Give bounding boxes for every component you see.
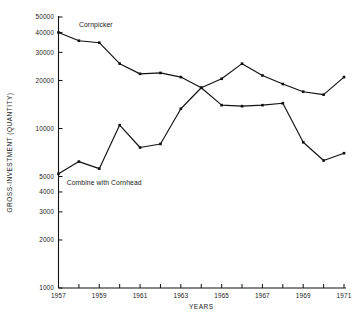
y-tick-label: 40000 (35, 29, 54, 36)
x-tick-label: 1963 (173, 292, 188, 299)
data-point-marker (139, 146, 142, 149)
x-tick-label: 1969 (296, 292, 311, 299)
x-tick-label: 1957 (51, 292, 66, 299)
data-point-marker (220, 77, 223, 80)
data-point-marker (241, 62, 244, 65)
data-point-marker (139, 73, 142, 76)
data-point-marker (200, 86, 203, 89)
x-tick-label: 1959 (92, 292, 107, 299)
data-point-marker (180, 76, 183, 79)
data-point-marker (159, 72, 162, 75)
data-point-marker (98, 167, 101, 170)
y-tick-label: 2000 (39, 236, 54, 243)
data-point-marker (343, 152, 346, 155)
data-point-marker (118, 124, 121, 127)
data-point-marker (282, 102, 285, 105)
data-point-marker (159, 143, 162, 146)
x-axis-title: YEARS (189, 303, 214, 310)
data-point-marker (78, 39, 81, 42)
data-point-marker (302, 141, 305, 144)
x-tick-label: 1967 (255, 292, 270, 299)
data-point-marker (261, 74, 264, 77)
x-tick-label: 1965 (214, 292, 229, 299)
data-point-marker (220, 104, 223, 107)
data-point-marker (282, 83, 285, 86)
x-tick-label: 1971 (337, 292, 352, 299)
data-point-marker (118, 62, 121, 65)
y-tick-label: 4000 (39, 188, 54, 195)
y-tick-label: 20000 (35, 77, 54, 84)
y-axis-title: GROSS-INVESTMENT (QUANTITY) (6, 93, 14, 213)
data-point-marker (322, 159, 325, 162)
data-point-marker (180, 107, 183, 110)
x-tick-label: 1961 (133, 292, 148, 299)
series-annotation-label: Cornpicker (79, 21, 113, 29)
y-tick-label: 30000 (35, 49, 54, 56)
data-point-marker (261, 104, 264, 107)
series-annotation-label: Combine with Cornhead (67, 179, 142, 186)
data-point-marker (241, 105, 244, 108)
data-point-marker (57, 31, 60, 34)
y-tick-label: 3000 (39, 208, 54, 215)
y-tick-label: 50000 (35, 13, 54, 20)
y-tick-label: 5000 (39, 173, 54, 180)
y-tick-label: 10000 (35, 125, 54, 132)
chart-figure: 1000200030004000500010000200003000040000… (0, 0, 352, 325)
data-point-marker (78, 160, 81, 163)
chart-svg: 1000200030004000500010000200003000040000… (0, 0, 352, 325)
data-point-marker (57, 172, 60, 175)
y-tick-label: 1000 (39, 284, 54, 291)
data-point-marker (322, 93, 325, 96)
data-point-marker (302, 90, 305, 93)
data-point-marker (343, 76, 346, 79)
data-point-marker (98, 41, 101, 44)
